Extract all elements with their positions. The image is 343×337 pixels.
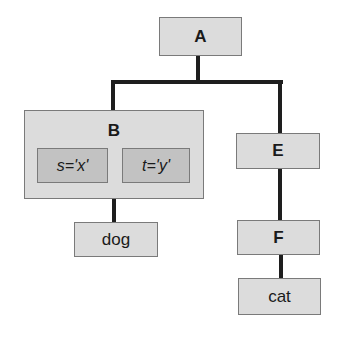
edge-f-cat xyxy=(279,255,283,279)
node-dog: dog xyxy=(74,222,158,257)
node-b-label: B xyxy=(25,121,203,141)
edge-e-f xyxy=(278,169,282,221)
edge-a-stem xyxy=(196,56,200,83)
node-e: E xyxy=(236,133,320,169)
edge-b-dog xyxy=(112,199,116,223)
edge-a-crossbar xyxy=(111,80,283,84)
edge-a-b xyxy=(111,80,115,111)
node-b-attribute-t: t='y' xyxy=(122,148,190,183)
node-f: F xyxy=(237,220,320,255)
node-cat: cat xyxy=(238,278,321,315)
node-b-attribute-s: s='x' xyxy=(37,148,108,183)
edge-a-e xyxy=(278,80,282,134)
node-a: A xyxy=(159,17,242,56)
